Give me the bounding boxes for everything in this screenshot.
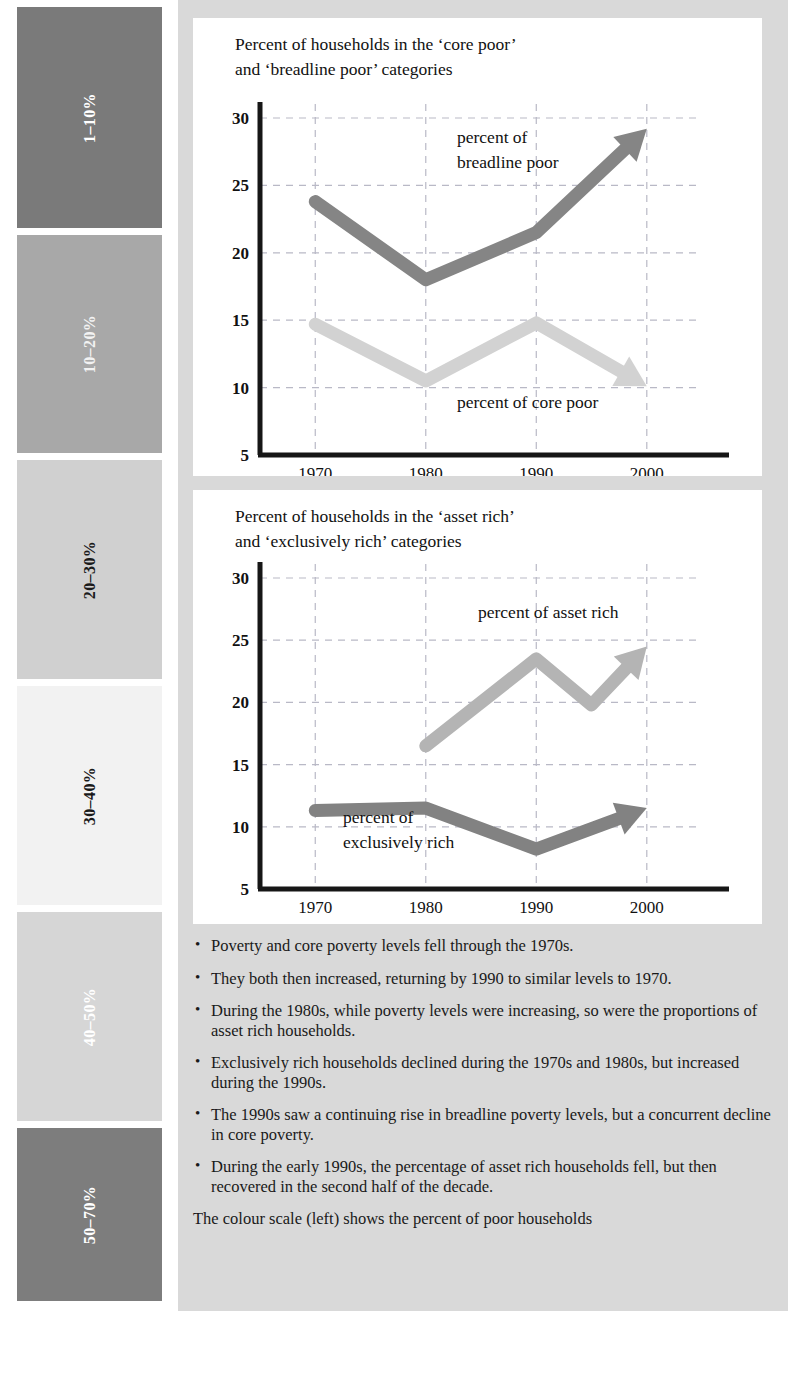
note-item: •During the 1980s, while poverty levels … xyxy=(193,1001,773,1040)
content-column: Percent of households in the ‘core poor’… xyxy=(178,0,788,1311)
colour-scale-band-label: 20–30% xyxy=(81,540,99,598)
x-axis-tick-label: 1980 xyxy=(409,464,443,476)
annotation-breadline-poor: percent of xyxy=(457,127,528,147)
colour-scale-band-4: 30–40% xyxy=(17,686,162,905)
y-axis-tick-label: 30 xyxy=(232,569,249,588)
note-item-text: During the early 1990s, the percentage o… xyxy=(211,1157,717,1196)
colour-scale-band-3: 20–30% xyxy=(17,460,162,679)
note-item: •During the early 1990s, the percentage … xyxy=(193,1157,773,1196)
y-axis-tick-label: 15 xyxy=(232,756,249,775)
x-axis-tick-label: 1980 xyxy=(409,898,443,917)
series-line-2 xyxy=(315,323,621,381)
y-axis-tick-label: 10 xyxy=(232,379,249,398)
annotation-asset-rich: percent of asset rich xyxy=(478,602,619,622)
colour-scale-legend: 1–10%10–20%20–30%30–40%40–50%50–70% xyxy=(17,7,162,1301)
chart-panel-asset-exclusively-rich: Percent of households in the ‘asset rich… xyxy=(193,490,762,924)
bullet-icon: • xyxy=(195,935,200,955)
bullet-icon: • xyxy=(195,1000,200,1020)
colour-scale-band-label: 10–20% xyxy=(81,315,99,373)
colour-scale-band-5: 40–50% xyxy=(17,912,162,1121)
y-axis-tick-label: 5 xyxy=(241,446,250,465)
colour-scale-band-6: 50–70% xyxy=(17,1128,162,1301)
note-item-text: Poverty and core poverty levels fell thr… xyxy=(211,936,573,955)
annotation-exclusively-rich: exclusively rich xyxy=(343,832,455,852)
x-axis-tick-label: 1970 xyxy=(298,464,332,476)
y-axis-tick-label: 25 xyxy=(232,176,249,195)
y-axis-tick-label: 5 xyxy=(241,880,250,899)
colour-scale-band-2: 10–20% xyxy=(17,235,162,453)
colour-scale-band-1: 1–10% xyxy=(17,7,162,228)
note-item: •Exclusively rich households declined du… xyxy=(193,1053,773,1092)
notes-footer: The colour scale (left) shows the percen… xyxy=(193,1209,773,1229)
plot-area-rich: 510152025301970198019902000percent of as… xyxy=(193,490,762,924)
chart-panel-core-breadline-poor: Percent of households in the ‘core poor’… xyxy=(193,18,762,476)
x-axis-tick-label: 1990 xyxy=(519,464,553,476)
bullet-icon: • xyxy=(195,1052,200,1072)
colour-scale-band-label: 40–50% xyxy=(81,987,99,1045)
note-item: •They both then increased, returning by … xyxy=(193,969,773,989)
colour-scale-band-label: 50–70% xyxy=(81,1185,99,1243)
colour-scale-band-label: 1–10% xyxy=(81,93,99,143)
y-axis-tick-label: 25 xyxy=(232,631,249,650)
y-axis-tick-label: 15 xyxy=(232,311,249,330)
x-axis-tick-label: 1990 xyxy=(519,898,553,917)
annotation-breadline-poor: breadline poor xyxy=(457,152,559,172)
chart-svg-rich: 510152025301970198019902000percent of as… xyxy=(193,490,762,924)
plot-area-poor: 510152025301970198019902000percent ofbre… xyxy=(193,18,762,476)
y-axis-tick-label: 10 xyxy=(232,818,249,837)
note-item: •Poverty and core poverty levels fell th… xyxy=(193,936,773,956)
y-axis-tick-label: 30 xyxy=(232,109,249,128)
x-axis-tick-label: 2000 xyxy=(630,898,664,917)
x-axis-tick-label: 2000 xyxy=(630,464,664,476)
annotation-exclusively-rich: percent of xyxy=(343,807,414,827)
note-item-text: During the 1980s, while poverty levels w… xyxy=(211,1001,757,1040)
x-axis-tick-label: 1970 xyxy=(298,898,332,917)
note-item: •The 1990s saw a continuing rise in brea… xyxy=(193,1105,773,1144)
annotation-core-poor: percent of core poor xyxy=(457,392,599,412)
note-item-text: The 1990s saw a continuing rise in bread… xyxy=(211,1105,771,1144)
bullet-icon: • xyxy=(195,1104,200,1124)
bullet-icon: • xyxy=(195,968,200,988)
y-axis-tick-label: 20 xyxy=(232,693,249,712)
bullet-icon: • xyxy=(195,1156,200,1176)
notes-list: •Poverty and core poverty levels fell th… xyxy=(193,936,773,1229)
chart-svg-poor: 510152025301970198019902000percent ofbre… xyxy=(193,18,762,476)
note-item-text: Exclusively rich households declined dur… xyxy=(211,1053,739,1092)
y-axis-tick-label: 20 xyxy=(232,244,249,263)
colour-scale-band-label: 30–40% xyxy=(81,766,99,824)
note-item-text: They both then increased, returning by 1… xyxy=(211,969,672,988)
